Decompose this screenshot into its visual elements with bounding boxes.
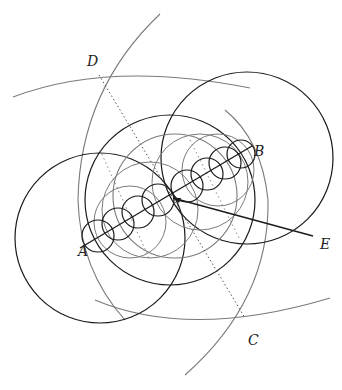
label-b: B	[254, 144, 264, 158]
label-d: D	[87, 54, 98, 68]
label-a: A	[78, 244, 88, 258]
circle-a	[15, 153, 185, 323]
circle-mid-3	[102, 162, 198, 258]
segment-ab	[80, 146, 252, 248]
circle-mid-1	[85, 115, 255, 285]
dotted-secondary-2	[190, 140, 240, 240]
construction-diagram	[0, 0, 342, 390]
label-c: C	[248, 333, 259, 347]
arc-through-d-top	[13, 76, 250, 97]
arc-through-c-bottom	[95, 298, 330, 320]
circle-mid-4	[152, 134, 248, 230]
label-e: E	[320, 237, 330, 251]
